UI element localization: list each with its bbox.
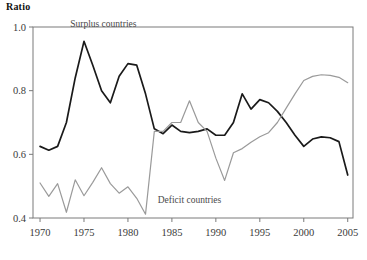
series-labels-layer: Surplus countriesDeficit countries xyxy=(70,19,221,205)
series-layer xyxy=(40,41,348,214)
y-tick-label: 0.4 xyxy=(13,213,27,224)
chart-figure: Ratio 0.40.60.81.01970197519801985199019… xyxy=(0,0,367,260)
series-line-surplus-countries xyxy=(40,41,348,175)
x-tick-label: 2000 xyxy=(293,227,314,238)
y-tick-label: 0.6 xyxy=(13,149,26,160)
x-tick-label: 1985 xyxy=(161,227,182,238)
series-label-deficit-countries: Deficit countries xyxy=(158,195,222,205)
y-tick-label: 0.8 xyxy=(13,85,26,96)
x-tick-label: 1995 xyxy=(249,227,270,238)
x-tick-label: 1975 xyxy=(73,227,94,238)
x-tick-label: 1980 xyxy=(117,227,138,238)
line-chart-svg: 0.40.60.81.01970197519801985199019952000… xyxy=(0,0,367,260)
x-tick-label: 2005 xyxy=(337,227,358,238)
y-tick-label: 1.0 xyxy=(13,22,26,33)
x-tick-label: 1970 xyxy=(30,227,51,238)
x-tick-label: 1990 xyxy=(205,227,226,238)
series-label-surplus-countries: Surplus countries xyxy=(70,19,137,29)
